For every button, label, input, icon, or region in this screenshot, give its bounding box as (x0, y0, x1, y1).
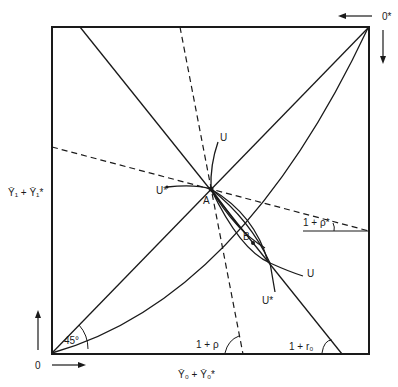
rho-star-angle-arc (333, 223, 334, 231)
left-arrow-icon (338, 13, 346, 19)
point-b (251, 241, 255, 245)
x-axis-label: Ȳ₀ + Ȳ₀* (178, 369, 215, 380)
u-star-label-bottom: U* (262, 295, 273, 306)
rho-star-label: 1 + ρ* (303, 217, 330, 228)
y-axis-label: Ȳ₁ + Ȳ₁* (8, 187, 43, 198)
point-b-label: B (243, 231, 250, 242)
up-arrow-icon (35, 310, 41, 318)
origin-star-label: 0* (382, 11, 392, 22)
indifference-curve-u-b (211, 189, 303, 276)
point-a-label: A (203, 195, 210, 206)
angle-45-arc (79, 325, 88, 349)
angle-45-label: 45° (64, 335, 79, 346)
rho-label: 1 + ρ (196, 339, 219, 350)
point-a (209, 187, 214, 192)
r0-label: 1 + r₀ (289, 341, 313, 352)
rho-angle-arc (225, 336, 239, 353)
down-arrow-icon (380, 56, 386, 64)
origin-label: 0 (35, 360, 41, 371)
r0-angle-arc (322, 340, 332, 353)
u-label-top: U (220, 132, 227, 143)
edgeworth-box-diagram: 0 0* Ȳ₀ + Ȳ₀* Ȳ₁ + Ȳ₁* 45° 1 + ρ 1 + ρ* … (0, 0, 398, 387)
u-label-right: U (307, 268, 314, 279)
right-arrow-icon (78, 362, 86, 368)
u-star-label-left: U* (156, 185, 167, 196)
